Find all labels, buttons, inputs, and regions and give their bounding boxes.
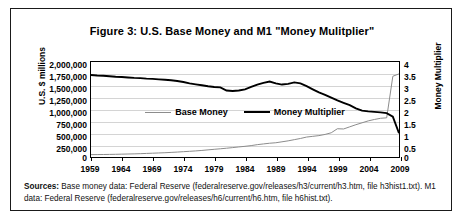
chart-canvas: U.S. $ millions 2,000,000 1,750,000 1,50… [11,9,453,174]
money-multiplier-line [91,75,399,133]
figure-container: Figure 3: U.S. Base Money and M1 "Money … [10,8,452,211]
x-tick-mark [401,157,402,161]
y2-tick-label: 2 [404,109,428,118]
x-axis-ticks: 1959 1964 1969 1974 1979 1984 1989 1994 … [90,164,400,178]
y2-tick-label: 3 [404,85,428,94]
y2-tick-label: 3.5 [404,73,428,82]
y-tick-label: 1,500,000 [31,85,87,94]
sources-body: Base money data: Federal Reserve (federa… [24,182,436,203]
y-tick-label: 750,000 [31,121,87,130]
x-tick-mark [308,157,309,161]
y-tick-label: 2,000,000 [31,61,87,70]
y-tick-label: 1,750,000 [31,73,87,82]
plot-area: Base Money Money Multiplier [90,61,400,158]
y-axis-right-title: Money Multiplier [433,21,443,131]
y-axis-right-ticks: 4 3.5 3 2.5 2 1.5 1 0.5 0 [404,9,430,174]
y2-tick-label: 0 [404,154,428,163]
y-tick-label: 1,000,000 [31,109,87,118]
y-axis-left-ticks: 2,000,000 1,750,000 1,500,000 1,250,000 … [27,9,87,174]
y-tick-label: 1,250,000 [31,97,87,106]
base-money-line [91,74,399,155]
y2-tick-label: 1 [404,133,428,142]
y2-tick-label: 2.5 [404,97,428,106]
y2-tick-label: 1.5 [404,121,428,130]
x-tick-mark [277,157,278,161]
x-tick-mark [215,157,216,161]
y-tick-label: 500,000 [31,133,87,142]
sources-note: Sources: Base money data: Federal Reserv… [24,181,442,204]
x-tick-mark [370,157,371,161]
x-tick-mark [153,157,154,161]
x-tick-label: 2009 [380,164,420,174]
x-tick-mark [184,157,185,161]
x-tick-mark [122,157,123,161]
sources-label: Sources: [24,182,59,191]
x-tick-mark [91,157,92,161]
x-tick-mark [339,157,340,161]
y-tick-label: 250,000 [31,145,87,154]
x-tick-mark [246,157,247,161]
y2-tick-label: 4 [404,61,428,70]
y-tick-label: 0 [31,154,87,163]
series-lines [91,62,399,157]
